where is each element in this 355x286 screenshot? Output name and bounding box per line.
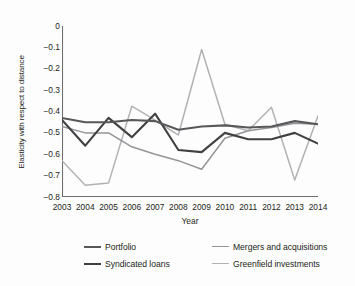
legend-label: Syndicated loans: [105, 259, 170, 269]
y-axis-tick-labels: 0−0.1−0.2−0.3−0.4−0.5−0.6−0.7−0.8: [14, 0, 60, 286]
x-tick-label: 2014: [301, 202, 335, 212]
series-line-mergers-and-acquisitions: [62, 123, 318, 169]
y-tick-label: −0.5: [20, 128, 60, 136]
y-tick-label: 0: [20, 22, 60, 30]
legend-line-swatch: [84, 246, 101, 248]
legend-item[interactable]: Syndicated loans: [84, 256, 170, 271]
legend-label: Portfolio: [105, 242, 136, 252]
series-canvas: [62, 26, 318, 197]
series-group: [62, 50, 318, 186]
legend-item[interactable]: Portfolio: [84, 239, 136, 254]
y-tick-label: −0.7: [20, 171, 60, 179]
x-axis-title: Year: [62, 216, 318, 226]
axes-group: [62, 26, 318, 197]
y-tick-label: −0.6: [20, 150, 60, 158]
y-tick-label: −0.1: [20, 43, 60, 51]
legend-item[interactable]: Mergers and acquisitions: [212, 239, 327, 254]
legend-label: Greenfield investments: [233, 259, 320, 269]
legend-line-swatch: [212, 263, 229, 264]
plot-area: [62, 26, 318, 197]
y-tick-label: −0.4: [20, 107, 60, 115]
chart-legend: PortfolioSyndicated loansMergers and acq…: [84, 239, 346, 273]
legend-line-swatch: [84, 263, 101, 265]
y-tick-label: −0.3: [20, 86, 60, 94]
line-chart-figure: Elasticity with respect to distance 0−0.…: [0, 0, 355, 286]
x-axis-tick-labels: 2003200420052006200720082009201020112012…: [62, 202, 318, 216]
legend-item[interactable]: Greenfield investments: [212, 256, 320, 271]
y-tick-label: −0.8: [20, 193, 60, 201]
y-tick-label: −0.2: [20, 64, 60, 72]
legend-line-swatch: [212, 246, 229, 247]
legend-label: Mergers and acquisitions: [233, 242, 327, 252]
